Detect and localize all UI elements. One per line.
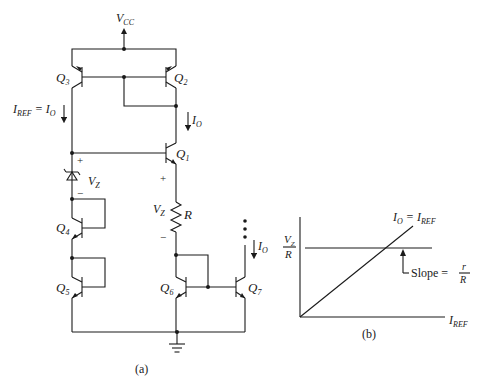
caption-a: (a) <box>135 362 148 376</box>
zener-minus: − <box>77 187 83 199</box>
panel-a-circuit: VCC Q3 Q2 IREF = IO IO <box>12 11 268 376</box>
q7-label: Q7 <box>248 280 262 297</box>
identity-label: IO = IREF <box>392 210 436 226</box>
iref-label: IREF = IO <box>12 102 56 118</box>
resistor-label: R <box>183 207 192 222</box>
resistor-r <box>171 202 181 232</box>
circuit-figure: VCC Q3 Q2 IREF = IO IO <box>0 0 482 384</box>
identity-line <box>300 226 413 317</box>
q6-label: Q6 <box>160 280 173 297</box>
svg-text:VZ: VZ <box>284 233 295 248</box>
zener-plus: + <box>77 154 83 166</box>
x-axis-label: IREF <box>448 313 468 329</box>
transistor-q5 <box>72 258 82 332</box>
resistor-plus: + <box>160 172 166 184</box>
q4-label: Q4 <box>56 220 69 237</box>
vz-over-r-label: VZ R <box>283 233 296 260</box>
resistor-vz-label: VZ <box>153 202 165 218</box>
io7-label: IO <box>257 239 268 255</box>
ground-icon <box>169 332 185 352</box>
vcc-arrow-icon <box>121 28 127 34</box>
transistor-q4 <box>72 199 82 258</box>
transistor-q1 <box>166 143 176 164</box>
q2-label: Q2 <box>174 70 187 87</box>
svg-text:R: R <box>459 274 466 285</box>
q3-label: Q3 <box>56 70 69 87</box>
q1-label: Q1 <box>176 146 189 163</box>
continuation-dots <box>243 219 247 223</box>
transistor-q6 <box>176 255 186 332</box>
q5-label: Q5 <box>56 280 69 297</box>
vcc-label: VCC <box>116 11 135 27</box>
svg-text:r: r <box>462 261 466 272</box>
slope-arrow-icon <box>400 249 406 256</box>
svg-text:R: R <box>284 248 292 260</box>
vz-label: VZ <box>88 174 100 190</box>
slope-label: Slope = <box>411 266 448 280</box>
transistor-q3 <box>72 66 82 88</box>
panel-b-graph: VZ R IO = IREF Slope = r R IREF (b) <box>283 210 470 341</box>
top-rail <box>72 49 176 66</box>
slope-fraction: r R <box>459 261 470 285</box>
resistor-minus: − <box>160 231 166 243</box>
node <box>122 47 126 51</box>
caption-b: (b) <box>362 327 376 341</box>
io-label: IO <box>191 113 202 129</box>
transistor-q7 <box>236 245 245 332</box>
